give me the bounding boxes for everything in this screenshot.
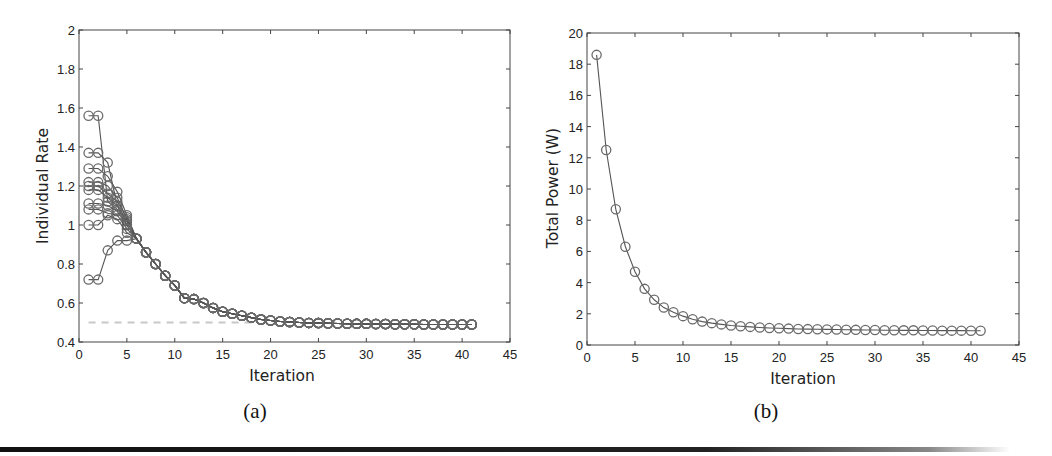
y-tick-label: 8 [576, 213, 583, 228]
series-line [89, 215, 472, 324]
y-tick-label: 6 [576, 244, 583, 259]
bottom-rule [0, 447, 1010, 452]
x-tick-label: 45 [1012, 350, 1026, 365]
series-line [89, 168, 472, 324]
x-tick-label: 0 [75, 347, 82, 362]
y-tick-label: 1.4 [57, 140, 75, 155]
x-tick-label: 35 [916, 350, 930, 365]
x-tick-label: 15 [724, 350, 738, 365]
x-tick-label: 25 [820, 350, 834, 365]
series-line [89, 204, 472, 325]
y-tick-label: 18 [569, 57, 583, 72]
panel-b-ticks: 05101520253035404502468101214161820 [569, 26, 1027, 365]
panel-a-xlabel: Iteration [249, 367, 315, 385]
panel-b-chart: 05101520253035404502468101214161820 Iter… [544, 26, 1026, 423]
x-tick-label: 15 [215, 347, 229, 362]
y-tick-label: 1.8 [57, 62, 75, 77]
y-tick-label: 12 [569, 151, 583, 166]
x-tick-label: 5 [123, 347, 130, 362]
x-tick-label: 30 [359, 347, 373, 362]
x-tick-label: 35 [407, 347, 421, 362]
y-tick-label: 10 [569, 182, 583, 197]
series-line [89, 116, 472, 325]
panel-a-chart: 0510152025303540450.40.60.811.21.41.61.8… [34, 23, 517, 423]
x-tick-label: 40 [455, 347, 469, 362]
series-line [89, 186, 472, 324]
y-tick-label: 1.2 [57, 179, 75, 194]
y-tick-label: 16 [569, 88, 583, 103]
x-tick-label: 10 [676, 350, 690, 365]
y-tick-label: 0.4 [57, 335, 75, 350]
y-tick-label: 2 [68, 23, 75, 38]
series-line [597, 55, 981, 331]
y-tick-label: 2 [576, 307, 583, 322]
panel-b-series [592, 50, 985, 335]
series-line [89, 239, 472, 325]
y-tick-label: 0.6 [57, 296, 75, 311]
series-line [89, 182, 472, 324]
panel-b-caption: (b) [754, 399, 779, 423]
y-tick-label: 1 [68, 218, 75, 233]
panel-a-axes-frame [79, 30, 510, 342]
figure: 0510152025303540450.40.60.811.21.41.61.8… [0, 0, 1052, 456]
x-tick-label: 45 [503, 347, 517, 362]
panel-b-axes-frame [587, 33, 1019, 345]
y-tick-label: 1.6 [57, 101, 75, 116]
panel-a-caption: (a) [243, 399, 266, 423]
series-line [89, 209, 472, 324]
x-tick-label: 25 [311, 347, 325, 362]
panel-a-series [84, 111, 476, 329]
x-tick-label: 20 [772, 350, 786, 365]
y-tick-label: 14 [569, 120, 583, 135]
x-tick-label: 5 [631, 350, 638, 365]
panel-b-xlabel: Iteration [770, 370, 836, 388]
y-tick-label: 0.8 [57, 257, 75, 272]
series-line [89, 153, 472, 325]
x-tick-label: 30 [868, 350, 882, 365]
x-tick-label: 0 [583, 350, 590, 365]
panel-a-ticks: 0510152025303540450.40.60.811.21.41.61.8… [57, 23, 517, 362]
x-tick-label: 10 [168, 347, 182, 362]
panel-b-ylabel: Total Power (W) [544, 128, 562, 249]
panel-a-ylabel: Individual Rate [34, 128, 52, 244]
y-tick-label: 0 [576, 338, 583, 353]
x-tick-label: 40 [964, 350, 978, 365]
x-tick-label: 20 [263, 347, 277, 362]
y-tick-label: 4 [576, 276, 583, 291]
y-tick-label: 20 [569, 26, 583, 41]
